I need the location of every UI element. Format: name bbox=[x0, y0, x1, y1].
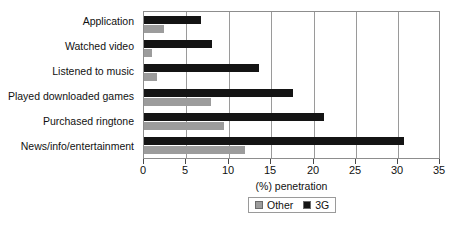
bar-3g-watched-video bbox=[144, 40, 212, 48]
tick-label-35: 35 bbox=[424, 164, 454, 177]
x-axis-tick-labels: 0 5 10 15 20 25 30 35 bbox=[0, 164, 459, 178]
gridline-25 bbox=[356, 12, 357, 158]
bar-3g-application bbox=[144, 16, 201, 24]
gridline-20 bbox=[314, 12, 315, 158]
category-label-purchased-ringtone: Purchased ringtone bbox=[0, 116, 134, 127]
legend-swatch-3g-icon bbox=[303, 201, 311, 209]
tick-label-10: 10 bbox=[213, 164, 243, 177]
gridline-10 bbox=[229, 12, 230, 158]
legend-entry-other: Other bbox=[255, 200, 293, 211]
category-label-watched-video: Watched video bbox=[0, 41, 134, 52]
legend-label-3g: 3G bbox=[315, 200, 329, 211]
tick-label-0: 0 bbox=[128, 164, 158, 177]
legend-entry-3g: 3G bbox=[303, 200, 329, 211]
category-axis-labels: Application Watched video Listened to mu… bbox=[0, 11, 138, 159]
bar-other-listened-to-music bbox=[144, 73, 157, 81]
bar-3g-played-downloaded-games bbox=[144, 89, 293, 97]
category-label-news-info-entertainment: News/info/entertainment bbox=[0, 141, 134, 152]
bar-other-news-info-entertainment bbox=[144, 146, 245, 154]
bar-other-purchased-ringtone bbox=[144, 122, 224, 130]
cut-off-caption bbox=[6, 221, 336, 227]
x-axis-title: (%) penetration bbox=[143, 180, 440, 192]
gridline-15 bbox=[271, 12, 272, 158]
chart-legend: Other 3G bbox=[248, 197, 336, 213]
tick-label-25: 25 bbox=[340, 164, 370, 177]
penetration-bar-chart: Application Watched video Listened to mu… bbox=[0, 0, 459, 228]
legend-swatch-other-icon bbox=[255, 201, 263, 209]
legend-label-other: Other bbox=[267, 200, 293, 211]
bar-other-application bbox=[144, 25, 164, 33]
category-label-application: Application bbox=[0, 16, 134, 27]
plot-area bbox=[143, 11, 440, 159]
category-label-listened-to-music: Listened to music bbox=[0, 66, 134, 77]
tick-label-5: 5 bbox=[170, 164, 200, 177]
tick-label-15: 15 bbox=[255, 164, 285, 177]
bar-3g-listened-to-music bbox=[144, 64, 259, 72]
gridline-5 bbox=[186, 12, 187, 158]
bar-3g-news-info-entertainment bbox=[144, 137, 404, 145]
gridline-30 bbox=[398, 12, 399, 158]
tick-label-30: 30 bbox=[382, 164, 412, 177]
tick-label-20: 20 bbox=[298, 164, 328, 177]
bar-other-played-downloaded-games bbox=[144, 98, 211, 106]
bar-other-watched-video bbox=[144, 49, 152, 57]
category-label-played-downloaded-games: Played downloaded games bbox=[0, 91, 134, 102]
bar-3g-purchased-ringtone bbox=[144, 113, 324, 121]
